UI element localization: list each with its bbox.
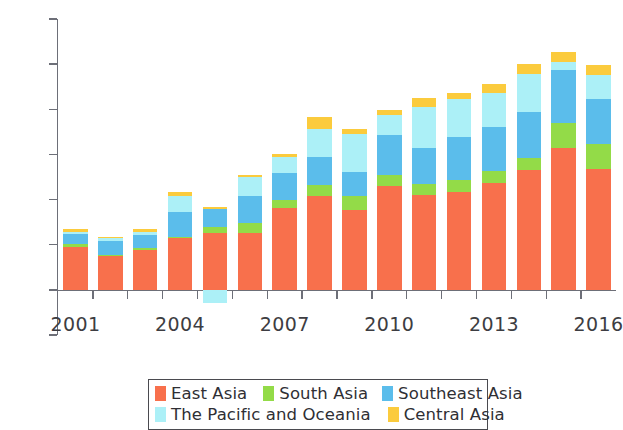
bar-segment[interactable] [98,237,122,239]
chart-legend: East Asia South Asia Southeast Asia The … [148,379,488,430]
bar-segment[interactable] [98,238,122,241]
bar-segment[interactable] [482,84,506,93]
bar-segment[interactable] [168,192,192,196]
bar-segment[interactable] [272,157,296,173]
bar-segment[interactable] [342,172,366,196]
bar-segment[interactable] [412,107,436,147]
bar-segment[interactable] [203,207,227,209]
bar-segment[interactable] [517,64,541,74]
bar-segment[interactable] [517,74,541,112]
bar-segment[interactable] [63,234,87,244]
bar-segment[interactable] [342,196,366,210]
bar-segment[interactable] [272,154,296,157]
bar-segment[interactable] [238,223,262,232]
bar-segment[interactable] [517,158,541,170]
bar-segment[interactable] [272,208,296,290]
bar-segment[interactable] [307,129,331,157]
legend-label-central-asia: Central Asia [404,405,505,424]
x-tick-label: 2013 [469,313,519,335]
x-tick-mark [92,290,93,299]
bar-segment[interactable] [238,233,262,290]
bar-segment[interactable] [133,229,157,231]
legend-entry-south-asia[interactable]: South Asia [263,384,368,403]
legend-label-south-asia: South Asia [279,384,368,403]
bar-segment[interactable] [482,127,506,171]
legend-entry-east-asia[interactable]: East Asia [155,384,247,403]
bar-segment[interactable] [377,135,401,175]
bar-segment[interactable] [63,244,87,247]
bar-segment[interactable] [168,196,192,212]
bar-segment[interactable] [551,52,575,62]
bar-segment[interactable] [203,233,227,290]
bar-segment[interactable] [447,137,471,180]
bar-segment[interactable] [447,180,471,192]
bar-segment[interactable] [342,134,366,172]
bar-segment[interactable] [133,232,157,236]
bar-segment[interactable] [447,192,471,290]
y-tick-mark [49,289,57,290]
bar-segment[interactable] [517,112,541,158]
bar-segment[interactable] [517,170,541,290]
x-tick-label: 2004 [155,313,205,335]
bar-segment[interactable] [307,196,331,290]
y-tick-mark [49,109,57,110]
legend-row-2: The Pacific and Oceania Central Asia [155,404,482,425]
y-tick-mark [49,199,57,200]
bar-segment[interactable] [168,212,192,236]
bar-segment[interactable] [586,99,610,144]
bar-segment[interactable] [377,115,401,135]
bar-segment[interactable] [98,256,122,289]
bar-segment[interactable] [586,169,610,290]
bar-segment[interactable] [238,196,262,223]
bar-segment[interactable] [551,70,575,123]
x-tick-mark [197,290,198,299]
bar-segment[interactable] [133,250,157,290]
bar-segment[interactable] [272,200,296,207]
bar-segment[interactable] [447,93,471,99]
bar-segment[interactable] [586,65,610,75]
legend-entry-the-pacific-and-oceania[interactable]: The Pacific and Oceania [155,405,371,424]
bar-segment[interactable] [482,183,506,290]
bar-segment[interactable] [377,175,401,186]
bar-segment[interactable] [63,229,87,231]
bar-segment[interactable] [98,241,122,255]
bar-segment[interactable] [168,237,192,238]
x-tick-mark [301,290,302,299]
bar-segment[interactable] [586,75,610,99]
bar-segment[interactable] [203,290,227,304]
x-tick-mark [511,290,512,299]
bar-segment[interactable] [272,173,296,201]
bar-segment[interactable] [307,157,331,185]
bar-segment[interactable] [63,247,87,290]
bar-segment[interactable] [342,210,366,289]
bar-segment[interactable] [168,238,192,290]
bar-segment[interactable] [482,93,506,126]
bar-segment[interactable] [412,195,436,290]
bar-segment[interactable] [482,171,506,183]
bar-segment[interactable] [307,185,331,196]
bar-segment[interactable] [551,123,575,148]
legend-entry-central-asia[interactable]: Central Asia [388,405,505,424]
bar-segment[interactable] [412,184,436,195]
bar-segment[interactable] [551,62,575,70]
legend-label-southeast-asia: Southeast Asia [398,384,523,403]
bar-segment[interactable] [203,227,227,233]
bar-segment[interactable] [377,110,401,115]
bar-segment[interactable] [447,99,471,137]
bar-segment[interactable] [63,232,87,234]
bar-segment[interactable] [133,235,157,248]
bar-segment[interactable] [133,248,157,250]
bar-segment[interactable] [238,175,262,177]
bar-segment[interactable] [586,144,610,169]
bar-segment[interactable] [307,117,331,130]
bar-segment[interactable] [98,255,122,257]
x-tick-mark [232,290,233,299]
bar-segment[interactable] [203,209,227,227]
bar-segment[interactable] [377,186,401,290]
legend-entry-southeast-asia[interactable]: Southeast Asia [382,384,523,403]
bar-segment[interactable] [412,98,436,108]
bar-segment[interactable] [238,177,262,196]
bar-segment[interactable] [412,148,436,184]
bar-segment[interactable] [551,148,575,290]
bar-segment[interactable] [342,129,366,134]
